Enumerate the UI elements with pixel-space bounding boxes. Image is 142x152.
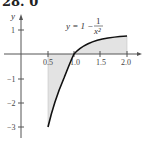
equation-denominator: x² xyxy=(93,26,101,36)
y-tick-neg2: −2 xyxy=(7,99,16,108)
x-tick-0.5: 0.5 xyxy=(43,58,53,67)
x-tick-1.5: 1.5 xyxy=(96,58,106,67)
chart: 0.5 1.0 1.5 2.0 1 −1 −2 −3 y y = 1 − 1 x… xyxy=(0,0,142,152)
equation-numerator: 1 xyxy=(96,16,101,26)
y-axis-label: y xyxy=(10,11,15,21)
equation-label: y = 1 − xyxy=(65,21,93,31)
x-tick-2.0: 2.0 xyxy=(121,58,131,67)
y-tick-1: 1 xyxy=(11,26,15,35)
y-tick-neg1: −1 xyxy=(7,75,16,84)
y-tick-neg3: −3 xyxy=(7,123,16,132)
